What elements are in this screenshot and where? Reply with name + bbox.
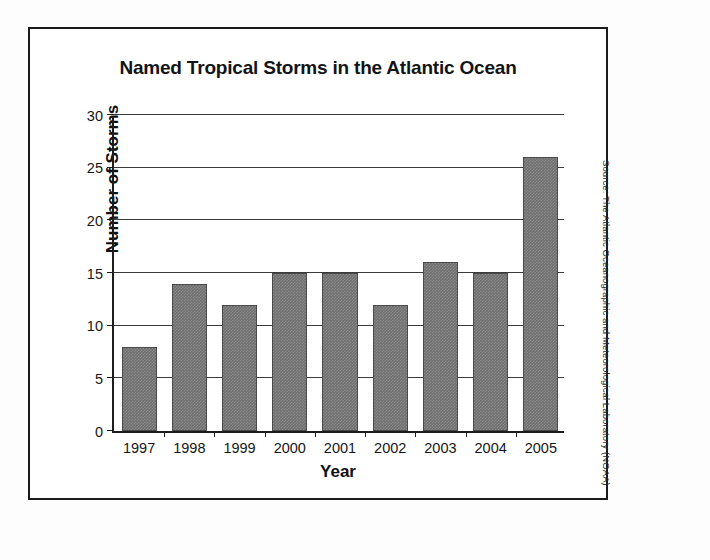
bar-2003 [423,262,458,431]
scanned-page: Named Tropical Storms in the Atlantic Oc… [0,0,710,560]
bars-layer [114,117,564,431]
y-axis-tick-label: 5 [95,371,103,387]
x-axis-tick-mark [164,431,165,437]
x-axis-tick-label: 2003 [424,440,456,456]
bar-2002 [373,305,408,431]
y-axis-tick-mark [107,377,114,378]
x-axis-tick-mark [365,431,366,437]
x-axis-tick-mark [214,431,215,437]
x-axis-tick-label: 1998 [173,440,205,456]
y-axis-tick-mark [107,430,114,431]
x-axis-tick-mark [315,431,316,437]
x-axis-tick-mark [516,431,517,437]
x-axis-tick-label: 2001 [324,440,356,456]
y-axis-tick-mark [107,114,114,115]
y-axis-tick-mark [107,325,114,326]
bar-2004 [473,273,508,431]
x-axis-tick-label: 1999 [223,440,255,456]
x-axis-tick-label: 1997 [123,440,155,456]
plot-area: 051015202530 199719981999200020012002200… [112,117,564,433]
bar-2005 [523,157,558,431]
y-axis-tick-label: 30 [87,108,103,124]
y-axis-tick-mark [107,272,114,273]
y-axis-tick-label: 0 [95,424,103,440]
bar-1998 [172,284,207,431]
chart-figure-frame: Named Tropical Storms in the Atlantic Oc… [28,27,608,500]
x-axis-tick-label: 2000 [274,440,306,456]
x-axis-tick-mark [415,431,416,437]
x-axis-tick-label: 2005 [525,440,557,456]
y-axis-tick-label: 15 [87,266,103,282]
bar-2001 [322,273,357,431]
bar-1999 [222,305,257,431]
bar-2000 [272,273,307,431]
y-axis-tick-mark [107,167,114,168]
x-axis-tick-label: 2004 [475,440,507,456]
y-axis-tick-label: 25 [87,160,103,176]
y-axis-tick-mark [107,219,114,220]
x-axis-tick-mark [466,431,467,437]
bar-1997 [122,347,157,431]
x-axis-tick-label: 2002 [374,440,406,456]
y-axis-tick-label: 20 [87,213,103,229]
x-axis-tick-mark [265,431,266,437]
source-credit: Source: The Atlantic Oceanographic and M… [601,160,612,490]
x-axis-title: Year [112,462,564,482]
gridline [114,114,564,115]
y-axis-tick-label: 10 [87,318,103,334]
